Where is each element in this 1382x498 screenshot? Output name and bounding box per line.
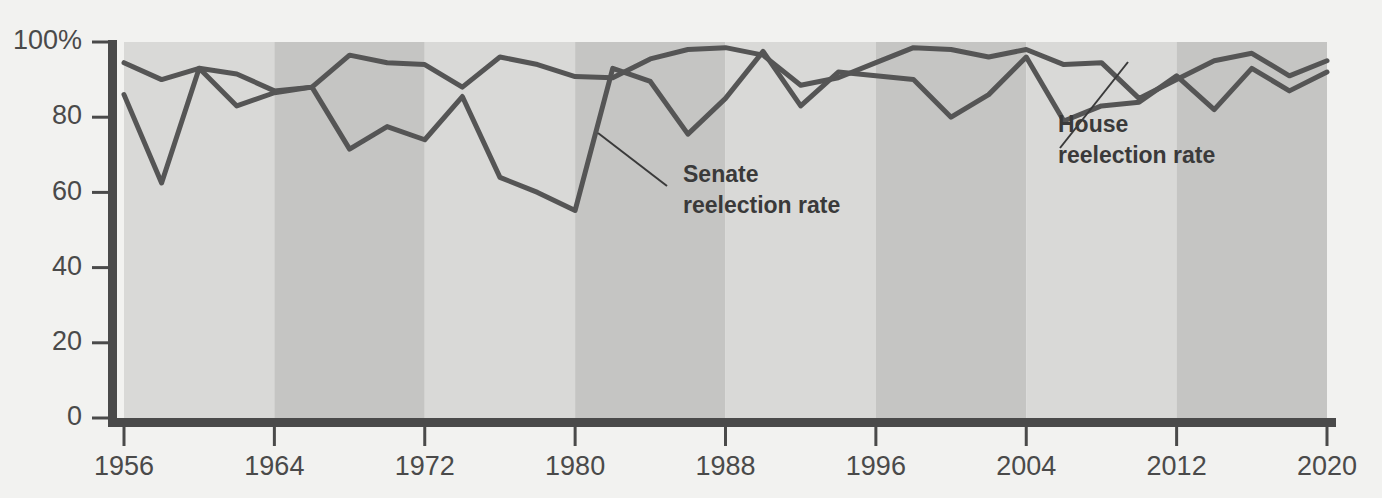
x-tick-label-1972: 1972: [395, 451, 455, 481]
x-tick-label-2012: 2012: [1147, 451, 1207, 481]
y-tick-label-0: 0: [67, 401, 82, 431]
y-tick-label-40: 40: [52, 251, 82, 281]
background-band-1980-1988: [575, 42, 725, 418]
x-tick-label-2004: 2004: [996, 451, 1056, 481]
annotation-label-house-line1: House: [1058, 111, 1128, 137]
y-tick-label-60: 60: [52, 176, 82, 206]
background-band-1996-2004: [876, 42, 1026, 418]
reelection-rate-line-chart: 020406080100% 19561964197219801988199620…: [0, 0, 1382, 498]
y-tick-label-20: 20: [52, 326, 82, 356]
chart-container: 020406080100% 19561964197219801988199620…: [0, 0, 1382, 498]
y-tick-label-80: 80: [52, 100, 82, 130]
x-tick-label-1956: 1956: [94, 451, 154, 481]
background-band-1988-1996: [726, 42, 876, 418]
x-tick-label-1988: 1988: [695, 451, 755, 481]
x-tick-label-1980: 1980: [545, 451, 605, 481]
annotation-label-senate-line2: reelection rate: [683, 192, 840, 218]
x-tick-label-2020: 2020: [1297, 451, 1357, 481]
background-band-1964-1972: [274, 42, 424, 418]
annotation-label-senate-line1: Senate: [683, 161, 758, 187]
x-tick-label-1996: 1996: [846, 451, 906, 481]
y-tick-label-100: 100%: [13, 25, 82, 55]
y-axis-bar: [108, 40, 117, 424]
annotation-label-house-line2: reelection rate: [1058, 142, 1215, 168]
background-band-1972-1980: [425, 42, 575, 418]
x-tick-label-1964: 1964: [244, 451, 304, 481]
x-axis-bar: [108, 418, 1336, 427]
